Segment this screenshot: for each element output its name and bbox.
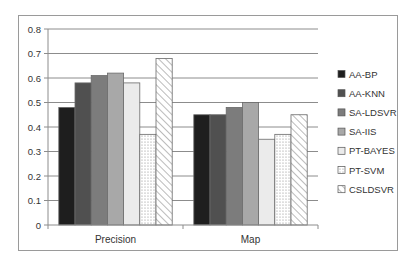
legend-label: SA-IIS [349,126,376,137]
legend-swatch [338,167,345,174]
y-tick-label: 0.5 [28,97,41,108]
bar [210,115,226,225]
x-axis: PrecisionMap [48,225,318,245]
bar [156,58,172,225]
bar [226,107,242,225]
legend-label: CSLDSVR [349,184,394,195]
y-axis: 00.10.20.30.40.50.60.70.8 [28,24,48,231]
y-tick-label: 0.6 [28,73,41,84]
y-tick-label: 0.7 [28,48,41,59]
x-category-label: Precision [95,234,136,245]
y-tick-label: 0.1 [28,195,41,206]
bar [107,73,123,225]
legend-swatch [338,147,345,154]
bar [242,103,258,226]
legend: AA-BPAA-KNNSA-LDSVRSA-IISPT-BAYESPT-SVMC… [338,69,397,195]
bar [75,83,91,225]
legend-swatch [338,128,345,135]
y-tick-label: 0.3 [28,146,41,157]
y-tick-label: 0.8 [28,24,41,35]
bar [194,115,210,225]
bar [91,76,107,225]
y-tick-label: 0 [36,220,41,231]
y-tick-label: 0.4 [28,122,41,133]
legend-swatch [338,109,345,116]
x-category-label: Map [241,234,261,245]
bar [291,115,307,225]
y-tick-label: 0.2 [28,171,41,182]
legend-label: AA-KNN [349,88,385,99]
bar [259,139,275,225]
bar [275,134,291,225]
bar [124,83,140,225]
legend-swatch [338,71,345,78]
legend-label: PT-SVM [349,165,384,176]
legend-swatch [338,90,345,97]
legend-label: PT-BAYES [349,145,395,156]
bar [59,107,75,225]
bar-chart: 00.10.20.30.40.50.60.70.8 PrecisionMap A… [0,0,416,267]
legend-label: AA-BP [349,69,378,80]
legend-swatch [338,186,345,193]
bar [140,134,156,225]
legend-label: SA-LDSVR [349,107,397,118]
